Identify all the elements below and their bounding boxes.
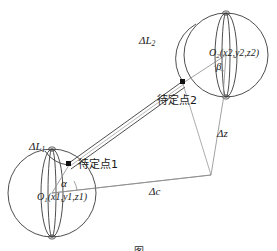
delta-l1-subscript: 1 [42,145,46,154]
figure-root: ΔL2 O2(x2,y2,z2) β 待定点2 Δz ΔL1 待定点1 α O1… [0,0,277,251]
label-delta-l1: ΔL1 [29,141,45,154]
label-center-1: O1(x1,y1,z1) [37,192,87,204]
label-center-2: O2(x2,y2,z2) [209,48,259,60]
delta-l2-symbol: ΔL [139,34,152,46]
delta-l2-arc [176,24,196,82]
offset-construction [52,84,224,193]
label-delta-c: Δc [149,186,160,197]
sphere-2-vertical-axis [223,55,226,97]
point-2-marker [180,79,185,84]
label-delta-l2: ΔL2 [139,35,155,48]
label-beta-angle: β [216,61,221,72]
label-point-1: 待定点1 [78,159,118,170]
label-delta-z: Δz [217,128,228,139]
delta-l2-subscript: 2 [152,39,156,48]
alpha-angle-arc [74,181,77,190]
label-point-2: 待定点2 [157,95,197,106]
center-1-coords: (x1,y1,z1) [48,191,87,202]
point-1-marker [66,161,71,166]
center-2-coords: (x2,y2,z2) [220,47,259,58]
delta-l1-symbol: ΔL [29,140,42,152]
figure-caption: 图 [0,243,277,251]
label-alpha-angle: α [61,178,67,189]
